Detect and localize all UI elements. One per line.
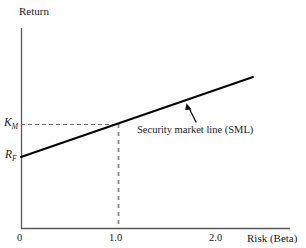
security-market-line-chart: Return Risk (Beta) KM RF 0 1.0 2.0 Secur… [0, 0, 306, 248]
y-tick-label-market-return: KM [4, 117, 18, 129]
y-tick-km-subscript: M [12, 122, 18, 131]
y-tick-label-risk-free-rate: RF [5, 149, 17, 161]
y-tick-rf-base: R [5, 148, 12, 160]
x-tick-label-0: 0 [17, 233, 22, 244]
y-axis-title: Return [19, 6, 49, 17]
y-tick-km-base: K [4, 116, 12, 128]
x-tick-label-2: 2.0 [209, 233, 222, 244]
sml-annotation-arrow [185, 103, 196, 122]
y-tick-rf-subscript: F [12, 154, 17, 163]
x-axis-title: Risk (Beta) [247, 233, 297, 244]
security-market-line [21, 77, 253, 157]
x-tick-label-1: 1.0 [109, 233, 122, 244]
sml-annotation-label: Security market line (SML) [137, 125, 253, 136]
